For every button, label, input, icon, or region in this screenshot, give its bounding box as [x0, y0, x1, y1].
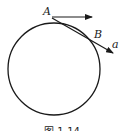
circular-motion-diagram: A B a 图 1-14: [0, 0, 125, 131]
figure-caption: 图 1-14: [44, 126, 80, 131]
circle-path: [8, 23, 100, 115]
label-point-b: B: [93, 28, 102, 41]
label-point-a: A: [42, 5, 51, 18]
chord-acceleration-arrow: [52, 18, 113, 53]
label-acceleration: a: [112, 38, 119, 51]
